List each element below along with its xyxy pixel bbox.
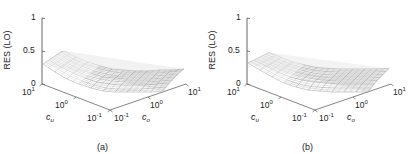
z-axis-label-b: RES (LO) — [207, 16, 219, 84]
cu-tick-1em1-b: 10-1 — [292, 114, 307, 123]
cu-axis-label-a: cu — [46, 113, 54, 122]
co-tick-1e0-b: 100 — [355, 101, 368, 110]
z-tick-05-a: 0.5 — [23, 46, 35, 55]
co-axis-label-a: co — [142, 113, 150, 122]
cu-axis-label-b: cu — [251, 113, 259, 122]
panel-caption-a: (a) — [0, 142, 205, 152]
co-tick-1e0-a: 100 — [150, 101, 163, 110]
z-tick-1-a: 1 — [31, 13, 36, 22]
z-axis-label-a: RES (LO) — [2, 16, 14, 84]
co-axis-label-b: co — [347, 113, 355, 122]
co-tick-1em1-a: 10-1 — [114, 114, 129, 123]
co-tick-1e1-a: 101 — [188, 88, 201, 97]
cu-tick-1em1-a: 10-1 — [87, 114, 102, 123]
co-tick-1e1-b: 101 — [393, 88, 406, 97]
panel-caption-b: (b) — [205, 142, 410, 152]
cu-tick-1e0-a: 100 — [55, 101, 68, 110]
z-tick-1-b: 1 — [236, 13, 241, 22]
panel-a: RES (LO) 1 0.5 0 101 100 10-1 10-1 100 1… — [0, 0, 205, 154]
cu-tick-1e1-a: 101 — [22, 88, 35, 97]
panel-b: RES (LO) 1 0.5 0 101 100 10-1 10-1 100 1… — [205, 0, 410, 154]
cu-tick-1e0-b: 100 — [260, 101, 273, 110]
z-tick-05-b: 0.5 — [228, 46, 240, 55]
cu-tick-1e1-b: 101 — [227, 88, 240, 97]
figure-two-surface-plots: RES (LO) 1 0.5 0 101 100 10-1 10-1 100 1… — [0, 0, 410, 154]
co-tick-1em1-b: 10-1 — [319, 114, 334, 123]
